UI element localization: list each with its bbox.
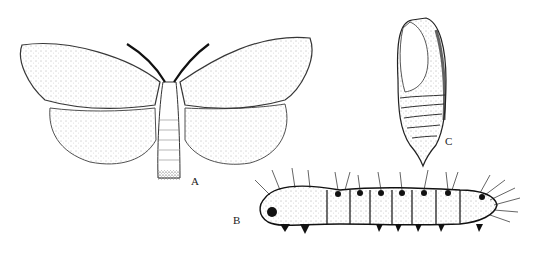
moth-life-stages-illustration: A B C [0,0,542,257]
adult-moth [20,37,312,180]
label-pupa: C [445,135,452,147]
larva [255,168,520,234]
label-larva: B [233,214,240,226]
pupa [398,18,446,166]
label-adult: A [191,175,199,187]
illustration-drawing [0,0,542,257]
